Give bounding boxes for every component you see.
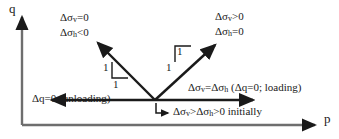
loading-annotation: Δσv=Δσh (Δq=0; loading) [188, 82, 301, 95]
left-slope-vertical-number: 1 [103, 62, 109, 74]
delta-sigma-symbol: Δσ [60, 26, 73, 38]
relation-text: =0 [77, 11, 89, 23]
delta-sigma-symbol: Δσ [188, 81, 201, 93]
delta-sigma-symbol: Δσ [173, 105, 186, 117]
relation-text: >Δσ [190, 105, 209, 117]
relation-text: >0 [232, 10, 244, 22]
initial-state-annotation: Δσv>Δσh>0 initially [173, 106, 262, 119]
unloading-annotation: Δq=0 (unloading) [32, 93, 110, 105]
relation-text: =0 [232, 25, 244, 37]
delta-sigma-symbol: Δσ [215, 25, 228, 37]
delta-sigma-symbol: Δσ [215, 10, 228, 22]
left-slope-horizontal-number: 1 [113, 79, 119, 91]
left-branch-annotation-line1: Δσv=0 [60, 12, 89, 25]
initial-condition-text: >0 initially [213, 105, 262, 117]
left-branch-annotation-line2: Δσh<0 [60, 27, 89, 40]
relation-text: =Δσ [205, 81, 224, 93]
right-slope-vertical-number: 1 [166, 62, 172, 74]
loading-condition-text: (Δq=0; loading) [228, 81, 301, 93]
right-branch-annotation-line2: Δσh=0 [215, 26, 244, 39]
relation-text: <0 [77, 26, 89, 38]
delta-sigma-symbol: Δσ [60, 11, 73, 23]
right-slope-horizontal-number: 1 [177, 46, 183, 58]
stress-path-diagram: q p Δσv=0 Δσh<0 Δσv>0 Δσh=0 Δσv=Δσh (Δq=… [0, 0, 339, 139]
y-axis-label: q [9, 2, 16, 16]
x-axis-label: p [324, 112, 331, 126]
right-branch-annotation-line1: Δσv>0 [215, 11, 244, 24]
initial-state-elbow-arrow [156, 103, 168, 113]
